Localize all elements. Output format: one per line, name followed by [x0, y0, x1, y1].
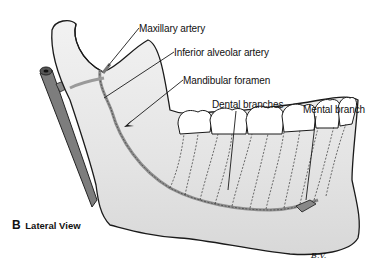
- panel-letter: B: [12, 218, 21, 232]
- label-mandibular-foramen: Mandibular foramen: [183, 75, 270, 87]
- label-dental-branches: Dental branches: [212, 99, 283, 111]
- label-maxillary-artery: Maxillary artery: [139, 23, 205, 35]
- artist-signature: B.V.: [311, 251, 326, 260]
- mandible-drawing: [0, 0, 376, 273]
- panel-caption: B Lateral View: [12, 218, 81, 232]
- panel-title: Lateral View: [25, 220, 80, 231]
- label-inferior-alveolar-artery: Inferior alveolar artery: [174, 47, 269, 59]
- mandible-illustration: Maxillary artery Inferior alveolar arter…: [0, 0, 376, 273]
- label-mental-branch: Mental branch: [303, 104, 365, 116]
